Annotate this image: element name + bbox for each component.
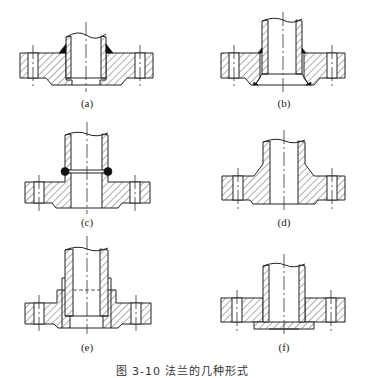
panel-e-drawing [25, 236, 151, 334]
pipe-wall-left [263, 265, 269, 322]
pipe-wall-right [102, 134, 108, 170]
pipe-wall-right [296, 20, 302, 74]
flange-section-left [222, 141, 270, 204]
pipe-wall-right [299, 265, 305, 322]
figure-caption: 图 3-10 法兰的几种形式 [0, 362, 365, 378]
flange-section-right [298, 141, 345, 204]
flange-section-right [102, 173, 150, 208]
flange-section-left [25, 173, 71, 208]
flange-section-left [25, 290, 70, 328]
pipe-wall-left [66, 36, 71, 78]
panel-label-b: (b) [278, 97, 291, 109]
panel-label-f: (f) [279, 341, 290, 353]
weld-bead-left [61, 168, 69, 176]
panel-c-drawing [25, 122, 150, 214]
panel-label-d: (d) [278, 216, 291, 228]
weld-top-right [302, 48, 306, 53]
flange-section-right [305, 298, 345, 322]
pipe-wall-right [101, 36, 106, 78]
panel-b-drawing [221, 12, 345, 92]
pipe-wall-left [262, 20, 268, 74]
flange-section-left [221, 53, 260, 85]
panel-d-drawing [222, 130, 345, 212]
pipe-wall-left [65, 249, 73, 316]
panel-label-c: (c) [81, 216, 93, 228]
pipe-wall-right [100, 249, 108, 316]
flange-section-right [304, 53, 345, 85]
weld-bead-right [104, 168, 112, 176]
panel-f-drawing [221, 254, 345, 336]
weld-right [106, 44, 113, 53]
panel-label-e: (e) [81, 341, 93, 353]
flange-section-right [103, 290, 151, 328]
weld-top-left [258, 48, 262, 53]
panel-label-a: (a) [81, 97, 93, 109]
panel-a-drawing [20, 22, 153, 92]
pipe-wall-left [65, 134, 71, 170]
weld-left [59, 44, 66, 53]
